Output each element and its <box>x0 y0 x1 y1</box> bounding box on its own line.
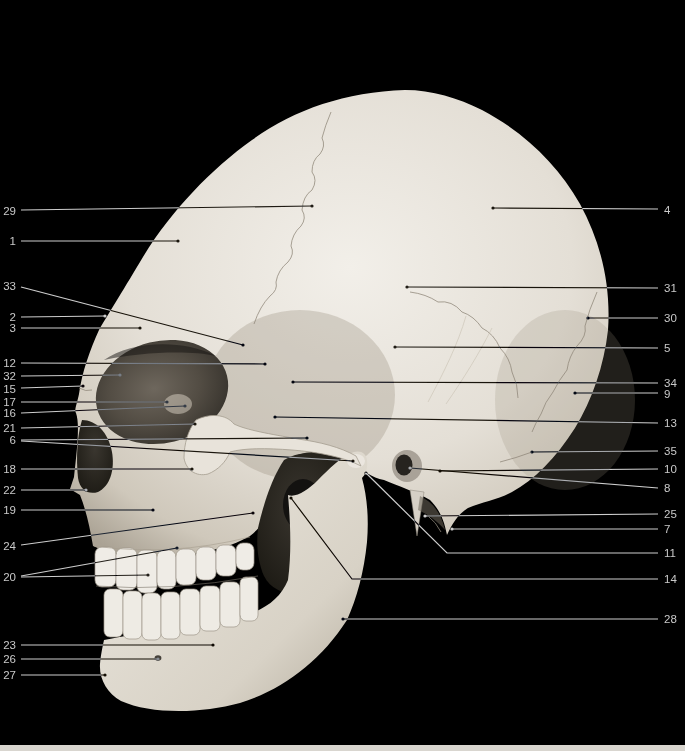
label-number-1: 1 <box>10 235 16 247</box>
label-number-12: 12 <box>3 357 16 369</box>
leader-endpoint-3 <box>138 326 141 329</box>
external-acoustic-meatus <box>396 455 413 476</box>
leader-endpoint-27 <box>103 673 106 676</box>
leader-endpoint-29 <box>310 204 313 207</box>
skull-photo-canvas: 2913323123215171621618221924202326274313… <box>0 0 685 751</box>
leader-endpoint-33 <box>241 343 244 346</box>
leader-endpoint-16 <box>183 404 186 407</box>
leader-endpoint-34 <box>291 380 294 383</box>
label-number-3: 3 <box>10 322 16 334</box>
leader-endpoint-4 <box>491 206 494 209</box>
leader-endpoint-7 <box>450 527 453 530</box>
figure-skull-lateral: 2913323123215171621618221924202326274313… <box>0 0 685 751</box>
leader-endpoint-1 <box>176 239 179 242</box>
leader-endpoint-17 <box>165 400 168 403</box>
leader-endpoint-15 <box>81 384 84 387</box>
leader-endpoint-20 <box>146 573 149 576</box>
label-number-11: 11 <box>664 547 676 559</box>
leader-endpoint-11 <box>364 471 367 474</box>
label-number-4: 4 <box>664 204 671 216</box>
label-number-22: 22 <box>3 484 16 496</box>
label-number-25: 25 <box>664 508 677 520</box>
leader-endpoint-32 <box>118 373 121 376</box>
label-number-33: 33 <box>3 280 16 292</box>
leader-endpoint-26 <box>156 657 159 660</box>
label-number-21: 21 <box>3 422 16 434</box>
leader-endpoint-31 <box>405 285 408 288</box>
leader-endpoint-23 <box>211 643 214 646</box>
leader-endpoint-24 <box>251 511 254 514</box>
leader-endpoint-12 <box>263 362 266 365</box>
leader-endpoint-30 <box>586 316 589 319</box>
label-number-5: 5 <box>664 342 670 354</box>
leader-endpoint-19 <box>151 508 154 511</box>
label-number-10: 10 <box>664 463 677 475</box>
leader-endpoint-28 <box>341 617 344 620</box>
label-number-23: 23 <box>3 639 16 651</box>
leader-endpoint-20 <box>175 546 178 549</box>
label-number-13: 13 <box>664 417 677 429</box>
label-number-28: 28 <box>664 613 677 625</box>
label-number-20: 20 <box>3 571 16 583</box>
label-number-26: 26 <box>3 653 16 665</box>
label-number-16: 16 <box>3 407 16 419</box>
lacrimal-patch <box>164 394 192 414</box>
leader-endpoint-22 <box>84 488 87 491</box>
label-number-7: 7 <box>664 523 670 535</box>
label-number-14: 14 <box>664 573 677 585</box>
label-number-8: 8 <box>664 482 670 494</box>
label-number-27: 27 <box>3 669 16 681</box>
leader-endpoint-13 <box>273 415 276 418</box>
leader-endpoint-21 <box>193 422 196 425</box>
leader-endpoint-35 <box>530 450 533 453</box>
label-number-35: 35 <box>664 445 677 457</box>
label-number-30: 30 <box>664 312 677 324</box>
label-number-29: 29 <box>3 205 16 217</box>
leader-endpoint-25 <box>423 514 426 517</box>
label-number-31: 31 <box>664 282 677 294</box>
leader-endpoint-6 <box>305 436 308 439</box>
label-number-18: 18 <box>3 463 16 475</box>
label-number-9: 9 <box>664 388 670 400</box>
leader-endpoint-8 <box>408 466 411 469</box>
leader-endpoint-14 <box>289 496 292 499</box>
label-number-19: 19 <box>3 504 16 516</box>
leader-endpoint-2 <box>103 314 106 317</box>
page-bottom-strip <box>0 745 685 751</box>
occiput-shading <box>495 310 635 490</box>
leader-endpoint-5 <box>393 345 396 348</box>
label-number-32: 32 <box>3 370 16 382</box>
leader-endpoint-6 <box>351 459 354 462</box>
leader-endpoint-9 <box>573 391 576 394</box>
label-number-24: 24 <box>3 540 16 552</box>
leader-endpoint-18 <box>190 467 193 470</box>
label-number-15: 15 <box>3 383 16 395</box>
label-number-6: 6 <box>10 434 16 446</box>
